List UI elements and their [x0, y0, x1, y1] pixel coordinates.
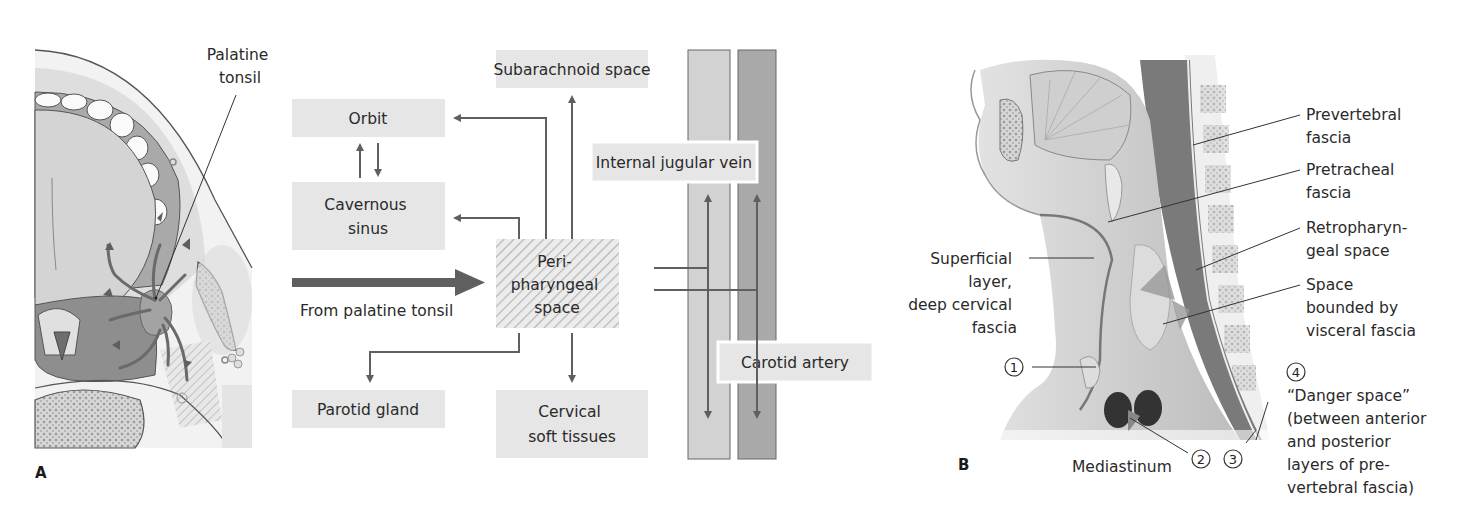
box-cervical [496, 390, 648, 458]
label-retropharyngeal-space: Retropharyn- geal space [1306, 219, 1412, 260]
source-arrow-head [455, 269, 485, 296]
source-label: From palatine tonsil [300, 302, 453, 320]
panel-a-anatomy: Palatine tonsil A [35, 46, 273, 482]
svg-text:1: 1 [1010, 360, 1018, 375]
svg-text:3: 3 [1229, 452, 1237, 467]
tonsil-label: Palatine tonsil [207, 46, 274, 87]
label-prevertebral-fascia: Prevertebral fascia [1306, 106, 1406, 147]
label-mediastinum: Mediastinum [1072, 458, 1172, 476]
subarachnoid-label: Subarachnoid space [493, 61, 650, 79]
svg-text:2: 2 [1197, 452, 1205, 467]
box-cavernous-sinus [292, 182, 445, 250]
label-superficial-layer: Superficial layer, deep cervical fascia [908, 250, 1017, 337]
flow-chart: Orbit Cavernous sinus Subarachnoid space… [292, 50, 873, 459]
orbit-label: Orbit [349, 110, 388, 128]
parotid-label: Parotid gland [317, 401, 419, 419]
figure-canvas: Palatine tonsil A Orbit Cavernous sinus … [0, 0, 1457, 523]
svg-text:4: 4 [1292, 365, 1300, 380]
panel-letter-a: A [35, 464, 47, 482]
internal-jugular-label: Internal jugular vein [596, 154, 752, 172]
label-pretracheal-fascia: Pretracheal fascia [1306, 161, 1399, 202]
marker-4: 4 [1287, 363, 1305, 381]
panel-letter-b: B [958, 456, 969, 474]
marker-2: 2 [1192, 450, 1210, 468]
marker-1: 1 [1005, 358, 1023, 376]
source-arrow-shaft [292, 278, 462, 287]
marker-3: 3 [1224, 450, 1242, 468]
label-visceral-space: Space bounded by visceral fascia [1306, 276, 1416, 340]
label-danger-space: “Danger space” (between anterior and pos… [1287, 387, 1431, 497]
